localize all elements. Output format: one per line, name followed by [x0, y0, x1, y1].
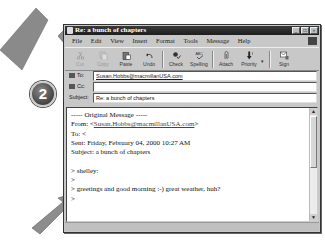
subject-row: Subject: Re: a bunch of chapters [65, 93, 319, 102]
maximize-button[interactable]: □ [301, 27, 309, 34]
toolbar: Cut Copy Paste Undo Check ABC Spelling A… [65, 47, 319, 71]
cc-row: Cc: [65, 82, 319, 91]
message-body-editor[interactable]: ----- Original Message -----From: <Susan… [66, 107, 318, 222]
sign-button[interactable]: Sign [273, 50, 295, 69]
body-line: > [71, 195, 307, 204]
undo-button[interactable]: Undo [138, 50, 160, 69]
to-row: To: Susan.Hobbs@macmillanUSA.com [65, 71, 319, 80]
body-line-from: From: <Susan.Hobbs@macmillanUSA.com> [71, 120, 307, 129]
spelling-icon: ABC [195, 51, 204, 60]
check-names-button[interactable]: Check [165, 50, 187, 69]
attach-button[interactable]: Attach [215, 50, 237, 69]
body-line: To: < [71, 130, 307, 139]
compose-window: Re: a bunch of chapters _ □ × File Edit … [63, 24, 321, 233]
check-label: Check [169, 61, 183, 67]
body-line: ----- Original Message ----- [71, 111, 307, 120]
spelling-label: Spelling [190, 61, 208, 67]
menu-tools[interactable]: Tools [183, 37, 197, 44]
body-line: > [71, 176, 307, 185]
undo-label: Undo [143, 61, 155, 67]
to-field[interactable]: Susan.Hobbs@macmillanUSA.com [93, 71, 317, 81]
priority-label: Priority [241, 61, 257, 67]
attach-label: Attach [219, 61, 233, 67]
scissors-icon [76, 51, 85, 60]
to-label-button[interactable]: To: [69, 71, 84, 80]
toolbar-separator [269, 51, 271, 68]
menu-message[interactable]: Message [206, 37, 229, 44]
status-bar [65, 222, 319, 231]
undo-icon [145, 51, 154, 60]
spelling-button[interactable]: ABC Spelling [188, 50, 210, 69]
title-bar: Re: a bunch of chapters _ □ × [65, 26, 319, 35]
sign-label: Sign [279, 61, 289, 67]
menu-edit[interactable]: Edit [91, 37, 102, 44]
sign-icon [280, 51, 289, 60]
cut-label: Cut [76, 61, 84, 67]
priority-icon [245, 51, 254, 60]
copy-label: Copy [97, 61, 109, 67]
menu-bar: File Edit View Insert Format Tools Messa… [65, 36, 319, 46]
copy-button[interactable]: Copy [92, 50, 114, 69]
minimize-button[interactable]: _ [292, 27, 300, 34]
from-email-link[interactable]: Susan.Hobbs@macmillanUSA.com [94, 120, 195, 128]
body-line: > greetings and good morning :-) great w… [71, 185, 307, 194]
cc-label-button[interactable]: Cc: [69, 82, 85, 91]
address-book-icon [69, 73, 75, 78]
paste-button[interactable]: Paste [115, 50, 137, 69]
priority-dropdown-arrow-icon[interactable]: ▾ [261, 58, 264, 64]
paste-icon [122, 51, 131, 60]
arrow-top-left-icon [0, 8, 48, 70]
body-line: > shelley: [71, 167, 307, 176]
window-title: Re: a bunch of chapters [75, 26, 146, 35]
scroll-up-arrow-icon[interactable]: ▲ [310, 108, 317, 115]
vertical-scrollbar[interactable]: ▲ ▼ [309, 108, 317, 221]
subject-field[interactable]: Re: a bunch of chapters [93, 93, 317, 103]
body-line [71, 157, 307, 166]
menu-file[interactable]: File [72, 37, 82, 44]
paperclip-icon [222, 51, 231, 60]
body-line: Sent: Friday, February 04, 2000 10:27 AM [71, 139, 307, 148]
scroll-down-arrow-icon[interactable]: ▼ [310, 214, 317, 221]
cut-button[interactable]: Cut [69, 50, 91, 69]
scroll-thumb[interactable] [310, 116, 317, 168]
check-names-icon [172, 51, 181, 60]
toolbar-separator [162, 51, 164, 68]
subject-label: Subject: [69, 93, 89, 102]
address-book-icon [69, 84, 75, 89]
menu-help[interactable]: Help [238, 37, 251, 44]
menu-format[interactable]: Format [156, 37, 175, 44]
message-header-fields: To: Susan.Hobbs@macmillanUSA.com Cc: Sub… [65, 70, 319, 104]
step-number-badge: 2 [30, 81, 56, 107]
priority-button[interactable]: Priority [238, 50, 260, 69]
toolbar-separator [212, 51, 214, 68]
svg-text:ABC: ABC [195, 52, 203, 56]
body-line: Subject: a bunch of chapters [71, 148, 307, 157]
close-button[interactable]: × [310, 27, 318, 34]
message-body-text[interactable]: ----- Original Message -----From: <Susan… [71, 111, 307, 204]
windows-logo-icon [308, 37, 317, 45]
menu-view[interactable]: View [110, 37, 124, 44]
envelope-icon [67, 27, 73, 34]
paste-label: Paste [120, 61, 133, 67]
cc-field[interactable] [93, 82, 317, 92]
copy-icon [99, 51, 108, 60]
menu-insert[interactable]: Insert [133, 37, 148, 44]
